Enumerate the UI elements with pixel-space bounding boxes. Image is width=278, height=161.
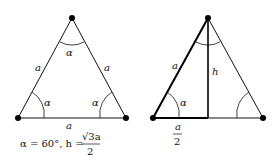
right-triangle: a h α a 2 — [150, 15, 266, 147]
formula-numerator: √3a — [82, 131, 101, 142]
formula-prefix: α = 60°, h = — [20, 138, 84, 149]
left-bottom-right-angle-arc — [100, 92, 112, 118]
bottom-side-label: a — [66, 120, 72, 131]
left-bottom-left-angle-arc — [32, 92, 44, 118]
left-apex-vertex — [69, 15, 75, 21]
left-bottom-right-angle-label: α — [92, 97, 99, 108]
left-bottom-left-angle-label: α — [44, 97, 51, 108]
height-label: h — [212, 66, 218, 77]
right-bottom-left-angle-arc — [167, 92, 179, 118]
right-side-label: a — [104, 62, 110, 73]
left-bottom-left-vertex — [15, 115, 21, 121]
half-base-denominator: 2 — [174, 136, 180, 147]
left-top-angle-arc — [60, 42, 84, 45]
left-side-label: a — [35, 62, 41, 73]
equilateral-triangle-diagram: α a a α α a α = 60°, h = √3a 2 a h α a 2 — [0, 0, 278, 161]
right-bottom-right-vertex — [260, 115, 266, 121]
right-bottom-right-angle-arc — [237, 92, 249, 118]
right-apex-vertex — [205, 15, 211, 21]
right-bottom-left-vertex — [150, 115, 156, 121]
left-bottom-right-vertex — [123, 115, 129, 121]
right-hypotenuse-label: a — [172, 60, 178, 71]
left-top-angle-label: α — [66, 47, 73, 58]
half-base-numerator: a — [175, 121, 181, 132]
formula-denominator: 2 — [87, 146, 93, 157]
left-triangle: α a a α α a α = 60°, h = √3a 2 — [15, 15, 129, 157]
right-bottom-left-angle-label: α — [180, 97, 187, 108]
